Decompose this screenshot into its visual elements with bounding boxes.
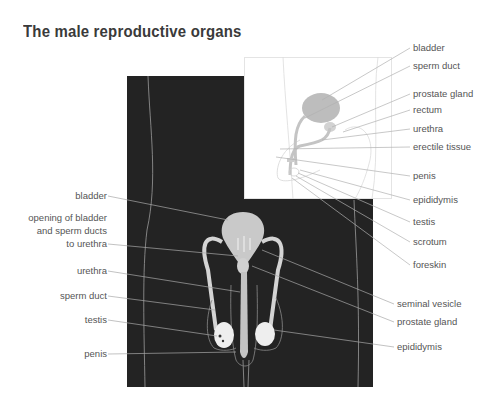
urethra-front	[240, 272, 248, 358]
label-opening-line-2: and sperm ducts	[28, 224, 107, 237]
bladder-side	[302, 93, 340, 123]
label-epididymis-front: epididymis	[397, 341, 442, 353]
label-penis-front: penis	[84, 348, 107, 360]
label-penis-side: penis	[413, 170, 436, 182]
label-opening-line-3: to urethra	[28, 237, 107, 250]
label-prostate-gland-front: prostate gland	[397, 316, 457, 328]
label-prostate-gland-side: prostate gland	[413, 88, 473, 100]
label-scrotum-side: scrotum	[413, 236, 447, 248]
label-sperm-duct-side: sperm duct	[413, 60, 460, 72]
left-testis	[214, 322, 234, 348]
sperm-duct-side	[295, 116, 305, 165]
label-opening-line-1: opening of bladder	[28, 211, 107, 224]
label-urethra-side: urethra	[413, 123, 443, 135]
left-sperm-duct	[204, 239, 222, 330]
label-erectile-tissue-side: erectile tissue	[413, 141, 471, 153]
label-seminal-vesicle-front: seminal vesicle	[397, 298, 461, 310]
label-opening-front: opening of bladder and sperm ducts to ur…	[28, 211, 107, 250]
label-bladder-side: bladder	[413, 42, 445, 54]
label-rectum-side: rectum	[413, 104, 442, 116]
label-urethra-front: urethra	[77, 265, 107, 277]
prostate-front	[237, 258, 249, 274]
label-testis-front: testis	[85, 314, 107, 326]
label-testis-side: testis	[413, 216, 435, 228]
front-organs	[204, 212, 282, 366]
label-epididymis-side: epididymis	[413, 194, 458, 206]
right-testis	[255, 322, 275, 346]
label-sperm-duct-front: sperm duct	[60, 290, 107, 302]
label-bladder-front: bladder	[75, 190, 107, 202]
right-sperm-duct	[262, 239, 281, 330]
label-foreskin-side: foreskin	[413, 259, 446, 271]
